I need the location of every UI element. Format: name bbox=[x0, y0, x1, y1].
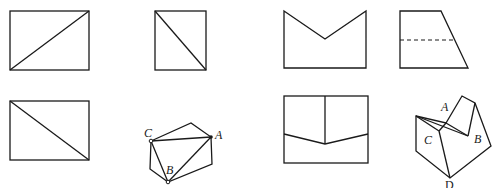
label-c: C bbox=[424, 133, 433, 147]
label-b: B bbox=[474, 132, 482, 146]
geometry-figures: C A B A B C D bbox=[0, 0, 492, 188]
figure-4-trapezoid bbox=[400, 11, 468, 68]
label-d: D bbox=[445, 178, 454, 188]
point-b-marker bbox=[166, 180, 170, 184]
figure-2-rectangle-diagonal bbox=[155, 11, 206, 70]
label-a: A bbox=[214, 128, 223, 142]
point-a-marker bbox=[209, 135, 213, 139]
figure-3-notched-rectangle bbox=[284, 11, 366, 68]
figure-6-folded-polygon: C A B bbox=[144, 123, 223, 184]
figure-8-folded-shape: A B C D bbox=[416, 96, 491, 188]
label-b: B bbox=[166, 163, 174, 177]
figure-7-rectangle-folds bbox=[284, 96, 368, 163]
figure-5-rectangle-diagonal bbox=[10, 101, 89, 160]
label-c: C bbox=[144, 126, 153, 140]
label-a: A bbox=[440, 100, 449, 114]
figure-1-rectangle-diagonal bbox=[10, 11, 89, 70]
